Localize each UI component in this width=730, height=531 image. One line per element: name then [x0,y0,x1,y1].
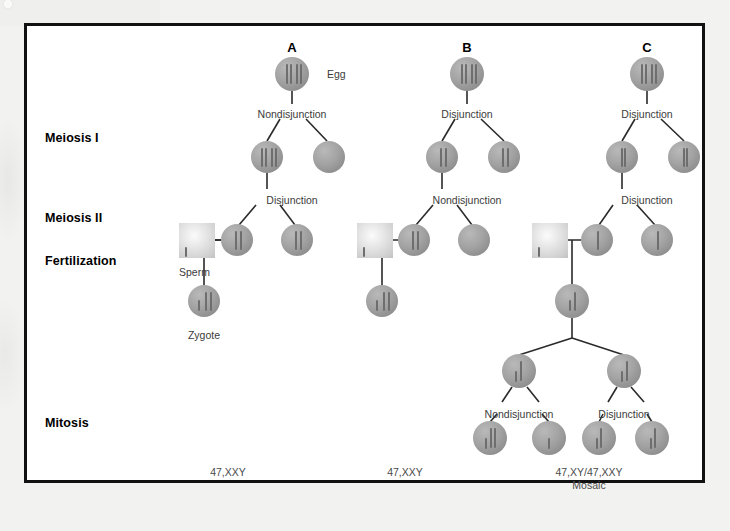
column-heading-b: B [462,40,471,55]
chromosome [686,148,688,167]
annotation-sperm: Sperm [179,266,210,278]
zygote-c [555,284,589,318]
meiosis2-c-left [581,224,613,256]
meiosis1-c-left [606,141,638,173]
chromosome [275,148,277,167]
karyotype-formula: 47,XY/47,XXY [555,466,622,479]
chromosome [624,148,626,167]
decorative-background-blotch [0,120,26,240]
chromosome [654,428,656,448]
karyotype-formula: 47,XXY [210,466,246,479]
chromosome [657,231,659,250]
sperm-b [357,223,393,258]
chromosome [621,148,623,167]
connector-line [442,119,455,141]
chromosome [376,300,378,311]
chromosome [210,292,212,311]
chromosome [296,64,298,84]
connector-line [280,205,295,225]
meiosis2-a-left [221,224,253,256]
chromosome [240,231,242,250]
chromosome [235,231,237,250]
annotation-disjunction: Disjunction [441,108,492,120]
chromosome [185,247,187,257]
connector-line [416,205,433,225]
chromosome [502,148,504,167]
chromosome [485,438,487,449]
diagram-panel: Meiosis IMeiosis IIFertilizationMitosisA… [24,23,705,483]
chromosome [597,231,599,250]
chromosome [621,371,623,382]
chromosome [626,361,628,381]
sperm-a [179,223,215,258]
chromosome [490,428,492,448]
chromosome [412,231,414,250]
zygote-a [188,285,220,317]
chromosome [440,148,442,167]
annotation-zygote: Zygote [188,329,220,341]
annotation-disjunction: Disjunction [621,108,672,120]
chromosome [475,64,477,84]
chromosome [271,148,273,167]
chromosome [383,292,385,311]
chromosome [417,231,419,250]
meiosis1-a-right [313,141,345,173]
meiosis1-b-left [426,141,458,173]
connector-line [622,119,635,141]
connector-line [661,119,684,141]
sperm-c [532,223,568,258]
row-label-mitosis: Mitosis [45,416,89,430]
chromosome [507,148,509,167]
chromosome [461,64,463,84]
column-heading-c: C [642,40,651,55]
chromosome [363,247,365,257]
karyotype-label: 47,XXY [210,466,246,479]
chromosome [641,64,643,84]
row-label-meiosis-ii: Meiosis II [45,211,102,225]
meiosis1-a-left [251,141,283,173]
row-label-fertilization: Fertilization [45,254,116,268]
chromosome [538,247,540,257]
chromosome [295,231,297,250]
decorative-background-blotch [0,300,24,410]
chromosome [388,292,390,311]
annotation-nondisjunction: Nondisjunction [258,108,327,120]
chromosome [471,64,473,84]
connector-line [306,119,327,141]
connector-line [572,338,624,355]
chromosome [300,231,302,250]
chromosome [683,148,685,167]
karyotype-label: 47,XY/47,XXYMosaic [555,466,622,492]
connector-line [608,387,617,402]
chromosome [261,148,263,167]
connector-line [481,119,504,141]
egg-cell-b [450,57,484,91]
chromosome [645,64,647,84]
connector-line [637,205,655,225]
connector-line [519,338,572,355]
karyotype-label: 47,XXY [387,466,423,479]
meiosis2-b-left [398,224,430,256]
mitosis-product-4 [635,421,669,455]
chromosome [198,300,200,311]
connector-line [239,205,256,225]
chromosome [596,438,598,449]
annotation-nondisjunction: Nondisjunction [433,194,502,206]
meiosis2-c-right [641,224,673,256]
annotation-disjunction: Disjunction [621,194,672,206]
meiosis1-c-right [668,141,700,173]
column-heading-a: A [287,40,296,55]
chromosome [600,428,602,448]
meiosis2-b-right [458,224,490,256]
connector-line [502,387,512,402]
chromosome [548,438,550,449]
chromosome [574,292,576,311]
chromosome [520,361,522,381]
connector-line [631,387,644,402]
mitosis-c-left [502,354,536,388]
row-label-meiosis-i: Meiosis I [45,131,99,145]
chromosome [265,148,267,167]
chromosome [465,64,467,84]
annotation-disjunction: Disjunction [266,194,317,206]
egg-cell-a [275,57,309,91]
